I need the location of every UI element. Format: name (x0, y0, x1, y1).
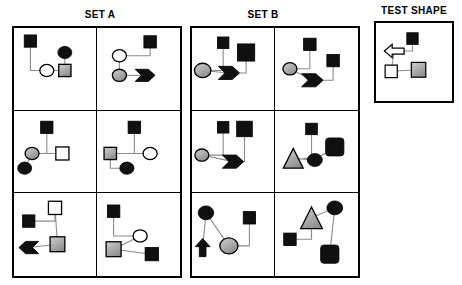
connector-white-circle-to-black-square (126, 48, 150, 56)
gray-square (106, 242, 121, 257)
cell-b5[interactable] (192, 193, 275, 276)
gray-square (50, 237, 65, 252)
diagram-a2 (97, 28, 180, 110)
white-arrow-left (384, 44, 404, 57)
connector-gray-triangle-to-black-square-small (296, 229, 311, 240)
cell-a4[interactable] (97, 111, 180, 194)
black-square (24, 35, 36, 47)
black-square-2 (145, 248, 158, 261)
black-square-right (327, 55, 339, 67)
gray-square (59, 64, 71, 76)
black-square-small (306, 123, 318, 134)
gray-circle (195, 149, 209, 161)
cell-b2[interactable] (275, 28, 358, 111)
cell-b3[interactable] (192, 111, 275, 194)
black-arrow-right (218, 66, 239, 79)
cell-a2[interactable] (97, 28, 180, 111)
connector-black-square-to-white-circle (134, 133, 143, 153)
black-square-top (304, 38, 316, 50)
black-rounded-square (321, 245, 339, 263)
connector-black-square-to-white-square (35, 215, 55, 222)
connector-black-square-to-white-square (47, 133, 56, 153)
black-circle (327, 201, 343, 215)
black-circle (307, 153, 322, 166)
set-a-grid (12, 26, 182, 278)
cell-a6[interactable] (97, 193, 180, 276)
connector-black-arrow-right-to-black-square-large (240, 61, 247, 73)
black-square (144, 36, 156, 48)
test-shape-box[interactable] (374, 21, 454, 103)
diagram-b1 (192, 28, 274, 110)
gray-circle (25, 147, 39, 159)
black-circle (198, 206, 214, 220)
white-square (48, 202, 61, 215)
black-square-small (284, 233, 296, 245)
diagram-t1 (376, 23, 452, 101)
connector-gray-circle-to-black-square (238, 224, 249, 246)
black-arrow-left (19, 242, 39, 254)
black-arrow-up (195, 239, 210, 257)
black-square (41, 121, 53, 133)
black-square (407, 33, 418, 45)
cell-a5[interactable] (14, 193, 97, 276)
white-circle (143, 147, 157, 159)
diagram-b5 (192, 193, 274, 276)
connector-black-square-to-white-circle (114, 218, 134, 237)
black-circle (58, 46, 72, 58)
black-arrow-right (302, 74, 324, 87)
diagram-b2 (275, 28, 358, 110)
connector-black-arrow-right-to-black-square-large (244, 136, 245, 161)
diagram-a6 (97, 193, 180, 276)
cell-a3[interactable] (14, 111, 97, 194)
black-square-large (237, 121, 253, 137)
black-square-small (217, 37, 228, 48)
connector-black-arrow-right-to-black-square-right (323, 67, 333, 80)
diagram-b3 (192, 111, 274, 193)
cell-b6[interactable] (275, 193, 358, 276)
diagram-a1 (14, 28, 96, 110)
diagram-a3 (14, 111, 96, 193)
cell-b4[interactable] (275, 111, 358, 194)
black-square (128, 121, 140, 133)
black-square (243, 212, 255, 224)
connector-white-arrow-left-to-black-square (404, 44, 412, 51)
set-b-title: SET B (213, 9, 313, 20)
connector-gray-circle-to-black-square-top (297, 50, 310, 68)
set-b-grid (190, 26, 360, 278)
black-rounded-square (326, 138, 344, 156)
gray-circle (194, 63, 210, 77)
diagram-b4 (275, 111, 358, 193)
diagram-a4 (97, 111, 180, 193)
black-arrow-right (222, 155, 243, 168)
cell-b1[interactable] (192, 28, 275, 111)
black-square-small (217, 121, 228, 132)
cell-a1[interactable] (14, 28, 97, 111)
puzzle-canvas: SET A SET B TEST SHAPE (0, 0, 462, 285)
white-circle (133, 230, 147, 242)
connector-black-square-to-white-circle (30, 47, 39, 70)
black-square (23, 215, 35, 227)
gray-square (411, 62, 425, 77)
test-shape-title: TEST SHAPE (370, 5, 458, 16)
connector-gray-square-to-black-circle (110, 159, 120, 168)
gray-triangle (301, 207, 323, 228)
connector-gray-circle-to-black-square-small (209, 133, 223, 155)
black-square-large (238, 44, 255, 61)
gray-square (104, 147, 116, 159)
diagram-b6 (275, 193, 358, 276)
black-circle (18, 162, 32, 174)
black-circle (120, 162, 134, 174)
white-square (385, 65, 397, 77)
gray-circle (220, 238, 238, 254)
white-circle (40, 64, 54, 76)
white-circle (112, 50, 126, 62)
gray-circle (283, 63, 297, 75)
gray-circle (112, 69, 126, 81)
white-square (56, 147, 69, 160)
diagram-a5 (14, 193, 96, 276)
set-a-title: SET A (50, 9, 150, 20)
black-square (107, 205, 119, 217)
